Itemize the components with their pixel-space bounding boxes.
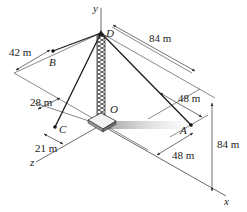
x-axis: [101, 125, 226, 196]
label-21m: 21 m: [35, 143, 57, 154]
label-42m: 42 m: [9, 47, 31, 58]
label-48m-bottom: 48 m: [172, 150, 194, 161]
label-O: O: [110, 104, 118, 115]
label-B: B: [49, 57, 56, 68]
label-84m-vertical: 84 m: [217, 139, 239, 150]
label-x-axis: x: [224, 196, 229, 207]
label-48m-top: 48 m: [178, 93, 200, 104]
tower-diagram: y D B C A O z x 42 m 84 m 48 m 28 m 21 m…: [0, 0, 247, 212]
anchor-C: [53, 125, 57, 129]
tower-mast: [97, 36, 105, 118]
label-84m-top: 84 m: [149, 33, 171, 44]
anchor-B: [51, 49, 55, 53]
label-A: A: [180, 125, 187, 136]
anchor-A: [189, 123, 193, 127]
label-28m: 28 m: [30, 97, 52, 108]
label-y-axis: y: [93, 3, 98, 14]
ground-ref-line: [14, 73, 148, 150]
label-C: C: [59, 124, 66, 135]
label-z-axis: z: [30, 157, 34, 168]
label-D: D: [106, 28, 114, 39]
